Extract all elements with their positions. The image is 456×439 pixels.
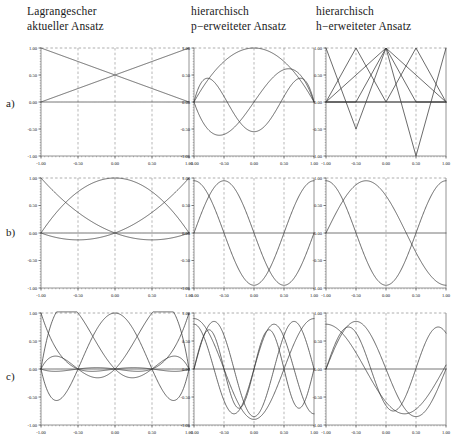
ytick-label: 0.00 bbox=[182, 367, 191, 372]
xtick-label: 1.00 bbox=[310, 293, 319, 298]
curve: hat at 0 bbox=[326, 48, 446, 102]
ytick-label: 1.00 bbox=[314, 311, 323, 316]
ytick-label: -0.50 bbox=[312, 258, 322, 263]
xtick-label: 0.50 bbox=[280, 161, 289, 166]
ytick-label: 0.50 bbox=[314, 73, 323, 78]
ytick-label: -0.50 bbox=[27, 258, 37, 263]
xtick-label: -0.50 bbox=[73, 161, 83, 166]
xtick-label: -1.00 bbox=[189, 161, 199, 166]
xtick-label: -1.00 bbox=[189, 293, 199, 298]
ytick-label: -1.00 bbox=[312, 286, 322, 291]
xtick-label: -1.00 bbox=[321, 293, 331, 298]
xtick-label: -0.50 bbox=[351, 161, 361, 166]
xtick-label: 0.00 bbox=[382, 430, 391, 435]
ytick-label: -1.00 bbox=[27, 154, 37, 159]
ytick-label: -0.50 bbox=[27, 395, 37, 400]
ytick-label: 0.00 bbox=[182, 100, 191, 105]
panel-a-lagrange: -1.00-0.500.000.501.001.000.500.00-0.50-… bbox=[27, 46, 193, 166]
panel-b-h-extended: -1.00-0.500.000.501.001.000.500.00-0.50-… bbox=[312, 176, 450, 298]
panel-b-p-extended: -1.00-0.500.000.501.001.000.500.00-0.50-… bbox=[180, 176, 318, 298]
xtick-label: 0.00 bbox=[250, 430, 259, 435]
xtick-label: 1.00 bbox=[442, 161, 451, 166]
panel-c-h-extended: -1.00-0.500.000.501.001.000.500.00-0.50-… bbox=[312, 311, 450, 435]
ytick-label: 0.00 bbox=[29, 100, 38, 105]
xtick-label: -0.50 bbox=[73, 293, 83, 298]
xtick-label: 0.00 bbox=[250, 293, 259, 298]
xtick-label: 0.00 bbox=[382, 293, 391, 298]
ytick-label: -0.50 bbox=[312, 395, 322, 400]
xtick-label: 1.00 bbox=[442, 293, 451, 298]
curve: hat at -0.5 bbox=[326, 48, 446, 102]
xtick-label: 0.50 bbox=[412, 161, 421, 166]
curve: bubble mode 2 bbox=[194, 48, 314, 102]
ytick-label: 1.00 bbox=[182, 311, 191, 316]
ytick-label: -0.50 bbox=[180, 258, 190, 263]
xtick-label: 0.50 bbox=[280, 293, 289, 298]
xtick-label: 1.00 bbox=[310, 430, 319, 435]
ytick-label: 0.50 bbox=[182, 203, 191, 208]
ytick-label: 1.00 bbox=[314, 176, 323, 181]
xtick-label: -0.50 bbox=[219, 161, 229, 166]
ytick-label: 0.50 bbox=[182, 73, 191, 78]
ytick-label: -1.00 bbox=[27, 423, 37, 428]
ytick-label: 0.50 bbox=[29, 203, 38, 208]
curve: V at -0.5 bbox=[326, 48, 446, 129]
ytick-label: -1.00 bbox=[180, 423, 190, 428]
xtick-label: 1.00 bbox=[442, 430, 451, 435]
xtick-label: 0.50 bbox=[280, 430, 289, 435]
ytick-label: 0.00 bbox=[29, 231, 38, 236]
xtick-label: 1.00 bbox=[310, 161, 319, 166]
curve: quartic L4 bbox=[41, 312, 189, 378]
panel-c-lagrange: -1.00-0.500.000.501.001.000.500.00-0.50-… bbox=[27, 311, 193, 435]
panel-a-h-extended: -1.00-0.500.000.501.001.000.500.00-0.50-… bbox=[312, 46, 450, 166]
xtick-label: 0.50 bbox=[148, 430, 157, 435]
ytick-label: -1.00 bbox=[180, 286, 190, 291]
ytick-label: 1.00 bbox=[29, 176, 38, 181]
ytick-label: -0.50 bbox=[312, 127, 322, 132]
xtick-label: -0.50 bbox=[351, 293, 361, 298]
curve: quad N2 bbox=[41, 178, 189, 233]
xtick-label: 0.00 bbox=[111, 430, 120, 435]
ytick-label: 1.00 bbox=[29, 311, 38, 316]
xtick-label: 0.50 bbox=[148, 161, 157, 166]
xtick-label: 0.50 bbox=[412, 293, 421, 298]
ytick-label: 1.00 bbox=[314, 46, 323, 51]
ytick-label: -1.00 bbox=[27, 286, 37, 291]
ytick-label: 0.00 bbox=[182, 231, 191, 236]
xtick-label: 0.00 bbox=[111, 161, 120, 166]
ytick-label: 0.00 bbox=[314, 100, 323, 105]
ytick-label: 0.50 bbox=[182, 339, 191, 344]
xtick-label: -1.00 bbox=[36, 161, 46, 166]
xtick-label: 0.00 bbox=[250, 161, 259, 166]
xtick-label: 0.50 bbox=[412, 430, 421, 435]
panel-b-lagrange: -1.00-0.500.000.501.001.000.500.00-0.50-… bbox=[27, 176, 193, 298]
ytick-label: 0.00 bbox=[314, 231, 323, 236]
xtick-label: 0.50 bbox=[148, 293, 157, 298]
ytick-label: 0.50 bbox=[29, 339, 38, 344]
xtick-label: -0.50 bbox=[219, 293, 229, 298]
xtick-label: -1.00 bbox=[321, 430, 331, 435]
ytick-label: 1.00 bbox=[29, 46, 38, 51]
xtick-label: -1.00 bbox=[189, 430, 199, 435]
ytick-label: -0.50 bbox=[27, 127, 37, 132]
xtick-label: -0.50 bbox=[351, 430, 361, 435]
ytick-label: -0.50 bbox=[180, 395, 190, 400]
ytick-label: -1.00 bbox=[180, 154, 190, 159]
ytick-label: -0.50 bbox=[180, 127, 190, 132]
xtick-label: -1.00 bbox=[321, 161, 331, 166]
curve: quartic L2 bbox=[41, 312, 189, 378]
xtick-label: 0.00 bbox=[382, 161, 391, 166]
xtick-label: -1.00 bbox=[36, 430, 46, 435]
ytick-label: 0.50 bbox=[29, 73, 38, 78]
ytick-label: -1.00 bbox=[312, 423, 322, 428]
curve: hat at 0.5 bbox=[326, 48, 446, 102]
xtick-label: 0.00 bbox=[111, 293, 120, 298]
panel-grid: -1.00-0.500.000.501.001.000.500.00-0.50-… bbox=[0, 0, 456, 439]
plots-canvas: -1.00-0.500.000.501.001.000.500.00-0.50-… bbox=[0, 0, 456, 439]
ytick-label: 1.00 bbox=[182, 46, 191, 51]
panel-a-p-extended: -1.00-0.500.000.501.001.000.500.00-0.50-… bbox=[180, 46, 318, 166]
xtick-label: -0.50 bbox=[219, 430, 229, 435]
ytick-label: 0.00 bbox=[29, 367, 38, 372]
xtick-label: -0.50 bbox=[73, 430, 83, 435]
ytick-label: 0.50 bbox=[314, 339, 323, 344]
